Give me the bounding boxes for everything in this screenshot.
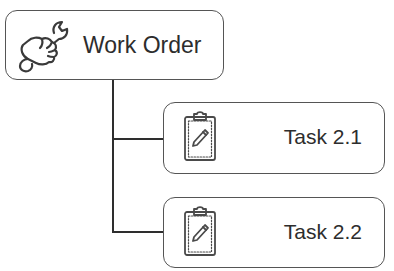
connector-branch-task-2-1	[112, 138, 163, 140]
connector-trunk	[112, 80, 114, 233]
clipboard-pencil-icon	[183, 206, 217, 258]
work-order-node[interactable]: Work Order	[5, 10, 224, 80]
work-order-label: Work Order	[83, 31, 201, 59]
connector-branch-task-2-2	[112, 231, 163, 233]
clipboard-pencil-icon	[183, 111, 217, 163]
task-2-2-node[interactable]: Task 2.2	[163, 197, 385, 268]
task-2-1-node[interactable]: Task 2.1	[163, 102, 385, 174]
task-2-2-label: Task 2.2	[284, 219, 362, 245]
wrench-hand-icon	[14, 19, 76, 73]
task-2-1-label: Task 2.1	[284, 124, 362, 150]
